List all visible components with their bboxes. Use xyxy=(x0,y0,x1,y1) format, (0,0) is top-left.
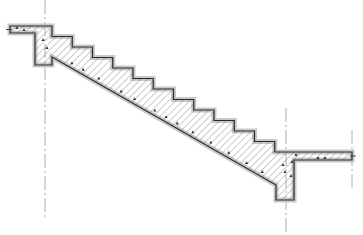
section-outline xyxy=(10,26,352,200)
concrete-section xyxy=(6,26,356,200)
stair-section-drawing xyxy=(0,0,363,235)
